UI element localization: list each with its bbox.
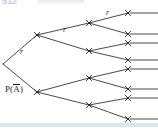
page-canvas: 512 r r r P(A): [0, 0, 158, 131]
tree-branch: [37, 35, 89, 51]
branch-label-level3-upper: r: [106, 8, 109, 17]
page-bottom-rule: [0, 123, 158, 127]
tree-node-level3: [86, 75, 91, 80]
branch-label-level2-upper: r: [63, 25, 66, 34]
tree-node-level2: [34, 89, 39, 94]
complement-event-a: A: [13, 84, 20, 94]
tree-branch: [89, 43, 128, 51]
tree-branch: [89, 78, 128, 89]
prob-prefix: P(: [5, 84, 13, 94]
tree-branch: [89, 69, 128, 78]
tree-node-layer: [34, 10, 130, 121]
tree-branch: [37, 78, 89, 92]
probability-tree-diagram: [0, 0, 158, 131]
tree-node-level2: [34, 32, 39, 37]
prob-suffix: ): [20, 84, 23, 94]
tree-branch: [37, 92, 89, 105]
root-probability-label: P(A): [5, 84, 23, 94]
tree-branch: [89, 105, 128, 119]
tree-branch: [89, 23, 128, 34]
tree-branch: [89, 51, 128, 60]
branch-label-level1-upper: r: [20, 47, 23, 56]
tree-branch: [89, 98, 128, 105]
tree-node-level3: [86, 20, 91, 25]
terminal-tail-layer: [130, 13, 158, 119]
